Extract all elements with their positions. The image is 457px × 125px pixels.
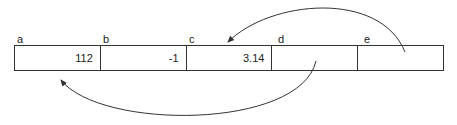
arrow-d-to-a xyxy=(61,61,316,115)
arrows-layer xyxy=(0,0,457,125)
arrow-e-to-c xyxy=(228,8,405,52)
